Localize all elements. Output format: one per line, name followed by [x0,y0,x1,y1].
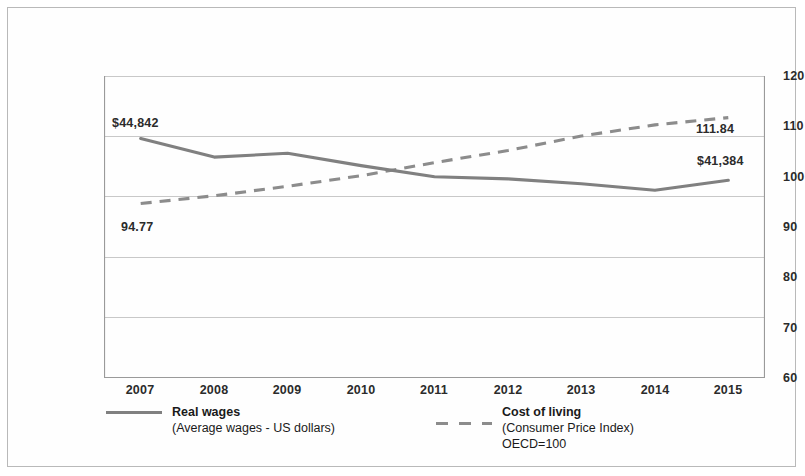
x-axis-tick-2007: 2007 [105,383,175,397]
y-axis-right-tick-120: 120 [783,69,804,83]
x-axis-tick-2013: 2013 [546,383,616,397]
legend-sublabel2-cost-of-living: OECD=100 [502,436,634,452]
data-label-cost-of-living-2007: 94.77 [121,220,153,234]
data-label-real-wages-2015: $41,384 [697,154,744,168]
y-axis-right-tick-110: 110 [783,119,804,133]
series-real-wages-line [141,139,729,191]
x-axis-tick-2009: 2009 [252,383,322,397]
legend-label-real-wages: Real wages [172,404,335,420]
legend-sublabel-cost-of-living: (Consumer Price Index) [502,420,634,436]
axis-spines [104,76,765,378]
legend-dashed-line-glyph [436,422,492,425]
legend-sublabel-real-wages: (Average wages - US dollars) [172,420,335,436]
y-axis-right-tick-70: 70 [783,321,797,335]
gridlines [104,77,765,378]
legend-swatch-solid-line [106,411,162,414]
x-axis-tick-2012: 2012 [473,383,543,397]
chart-canvas [104,76,765,378]
x-axis-tick-2015: 2015 [693,383,763,397]
x-axis-tick-2014: 2014 [620,383,690,397]
y-axis-right-tick-80: 80 [783,270,797,284]
chart-legend: Real wages (Average wages - US dollars) … [8,404,797,466]
legend-label-cost-of-living: Cost of living [502,404,634,420]
plot-area: $44,842 $41,384 94.77 111.84 [104,76,765,378]
legend-swatch-dashed-line [436,411,492,414]
x-axis-tick-2008: 2008 [179,383,249,397]
y-axis-right-tick-60: 60 [783,371,797,385]
x-axis-tick-2010: 2010 [326,383,396,397]
data-label-cost-of-living-2015: 111.84 [696,122,734,136]
x-axis-tick-2011: 2011 [399,383,469,397]
y-axis-right-tick-90: 90 [783,220,797,234]
y-axis-right-tick-100: 100 [783,170,804,184]
data-label-real-wages-2007: $44,842 [112,116,159,130]
chart-figure: $44,842 $41,384 94.77 111.84 $50,000 $45… [7,7,796,467]
series-cost-of-living-line [141,118,729,204]
